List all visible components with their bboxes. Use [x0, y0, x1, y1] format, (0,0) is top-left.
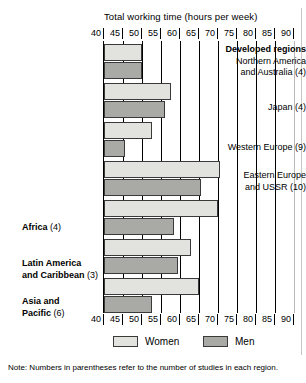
axis-tick-mark-55	[160, 314, 161, 325]
axis-tick-label-65: 65	[186, 28, 198, 38]
legend-label-women: Women	[145, 336, 179, 347]
axis-tick-mark-50	[141, 314, 142, 325]
category-label-line2-bold: and Caribbean	[22, 270, 85, 280]
bar-women-group-1	[104, 83, 171, 100]
category-label-northern-america: Developed regions Northern America and A…	[207, 44, 306, 79]
axis-tick-mark-65	[198, 314, 199, 325]
legend-label-men: Men	[235, 336, 254, 347]
category-label-africa: Africa (4)	[22, 222, 102, 234]
category-label-bold: Africa	[22, 222, 48, 232]
axis-tick-label-45: 45	[110, 314, 122, 324]
axis-tick-label-85: 85	[262, 314, 274, 324]
axis-tick-label-45: 45	[110, 28, 122, 38]
category-label-line2: and USSR (10)	[207, 182, 306, 194]
axis-tick-mark-70	[217, 314, 218, 325]
category-label-line1: Asia and	[22, 296, 107, 308]
chart-page: Total working time (hours per week) 4045…	[0, 0, 306, 383]
category-label-line1: Eastern Europe	[207, 170, 306, 182]
bar-men-group-4	[104, 218, 174, 235]
legend-item-women: Women	[113, 336, 179, 347]
x-axis-top: 4045505560657075808590	[95, 28, 306, 40]
bar-women-group-2	[104, 122, 152, 139]
axis-tick-label-65: 65	[186, 314, 198, 324]
group-header-developed-regions: Developed regions	[207, 44, 306, 56]
axis-tick-label-50: 50	[129, 28, 141, 38]
axis-tick-label-60: 60	[167, 314, 179, 324]
axis-tick-mark-80	[255, 28, 256, 39]
category-label-line1: Latin America	[22, 258, 107, 270]
category-label-count: (4)	[48, 222, 62, 232]
category-label-asia-pacific: Asia and Pacific (6)	[22, 296, 107, 319]
bar-men-group-6	[104, 296, 152, 313]
category-label-count: (6)	[51, 308, 65, 318]
axis-tick-mark-70	[217, 28, 218, 39]
axis-tick-mark-65	[198, 28, 199, 39]
axis-tick-label-90: 90	[281, 314, 293, 324]
bar-women-group-0	[104, 44, 142, 61]
chart-note: Note: Numbers in parentheses refer to th…	[8, 363, 300, 372]
category-label-line2: and Australia (4)	[207, 67, 306, 79]
category-label-japan: Japan (4)	[207, 102, 306, 114]
bar-men-group-1	[104, 101, 165, 118]
axis-tick-label-90: 90	[281, 28, 293, 38]
bar-women-group-4	[104, 200, 218, 217]
axis-tick-mark-75	[236, 314, 237, 325]
chart-title: Total working time (hours per week)	[104, 11, 257, 22]
axis-tick-label-75: 75	[224, 28, 236, 38]
bar-women-group-3	[104, 161, 220, 178]
axis-tick-mark-45	[122, 314, 123, 325]
category-label-eastern-europe: Eastern Europe and USSR (10)	[207, 170, 306, 193]
category-label-line1: Northern America	[207, 56, 306, 68]
axis-tick-label-75: 75	[224, 314, 236, 324]
legend-swatch-women-icon	[113, 336, 138, 347]
legend-item-men: Men	[203, 336, 254, 347]
axis-tick-label-80: 80	[243, 314, 255, 324]
note-text: Numbers in parentheses refer to the numb…	[27, 363, 278, 372]
axis-tick-label-40: 40	[91, 28, 103, 38]
legend-swatch-men-icon	[203, 336, 228, 347]
axis-tick-label-85: 85	[262, 28, 274, 38]
axis-tick-mark-85	[274, 314, 275, 325]
axis-tick-label-70: 70	[205, 28, 217, 38]
category-label-latin-america: Latin America and Caribbean (3)	[22, 258, 107, 281]
bar-men-group-5	[104, 257, 178, 274]
chart-legend: Women Men	[103, 336, 293, 351]
axis-tick-label-50: 50	[129, 314, 141, 324]
bar-men-group-2	[104, 140, 125, 157]
axis-tick-mark-55	[160, 28, 161, 39]
axis-tick-mark-80	[255, 314, 256, 325]
axis-tick-mark-60	[179, 314, 180, 325]
axis-tick-label-60: 60	[167, 28, 179, 38]
category-label-western-europe: Western Europe (9)	[207, 142, 306, 154]
axis-tick-label-55: 55	[148, 314, 160, 324]
axis-tick-label-70: 70	[205, 314, 217, 324]
bar-men-group-0	[104, 62, 142, 79]
axis-tick-mark-60	[179, 28, 180, 39]
bar-women-group-6	[104, 278, 199, 295]
axis-tick-mark-85	[274, 28, 275, 39]
category-label-line2-bold: Pacific	[22, 308, 51, 318]
bar-women-group-5	[104, 239, 191, 256]
axis-tick-mark-75	[236, 28, 237, 39]
category-label-text: Western Europe (9)	[207, 142, 306, 154]
axis-tick-mark-90	[293, 314, 294, 325]
axis-tick-mark-50	[141, 28, 142, 39]
note-prefix: Note:	[8, 363, 27, 372]
axis-tick-label-80: 80	[243, 28, 255, 38]
category-label-text: Japan (4)	[207, 102, 306, 114]
axis-tick-mark-45	[122, 28, 123, 39]
axis-tick-label-55: 55	[148, 28, 160, 38]
bar-men-group-3	[104, 179, 201, 196]
axis-tick-mark-40	[103, 28, 104, 39]
category-label-count: (3)	[85, 270, 99, 280]
x-axis-bottom: 4045505560657075808590	[95, 314, 306, 326]
axis-tick-mark-90	[293, 28, 294, 39]
